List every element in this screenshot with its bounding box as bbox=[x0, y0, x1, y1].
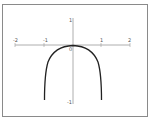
chart-svg: -2 -1 1 2 1 0 -1 bbox=[0, 0, 151, 122]
x-tick-label: -1 bbox=[43, 37, 48, 43]
y-tick-label: 1 bbox=[69, 17, 72, 23]
chart-frame bbox=[3, 5, 148, 117]
x-tick-label: 1 bbox=[100, 37, 103, 43]
x-tick-label: -2 bbox=[13, 37, 18, 43]
chart-container: -2 -1 1 2 1 0 -1 bbox=[0, 0, 151, 122]
y-tick-label: 0 bbox=[69, 46, 72, 52]
y-tick-label: -1 bbox=[67, 99, 72, 105]
x-tick-label: 2 bbox=[128, 37, 131, 43]
